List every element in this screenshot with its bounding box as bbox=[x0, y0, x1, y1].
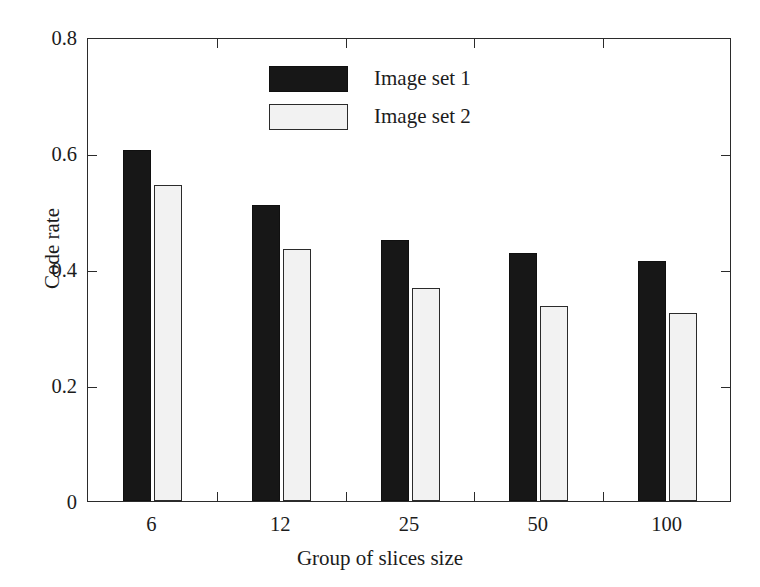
x-tick-mark bbox=[217, 39, 218, 48]
figure-canvas: 00.20.40.60.8 6122550100 Code rate Group… bbox=[0, 0, 760, 587]
x-axis-title: Group of slices size bbox=[0, 546, 760, 571]
y-tick-mark bbox=[721, 387, 730, 388]
bar-image-set-1-25 bbox=[381, 240, 409, 501]
plot-area: Image set 1 Image set 2 bbox=[87, 38, 731, 502]
x-tick-label: 100 bbox=[627, 514, 707, 535]
x-tick-mark bbox=[346, 492, 347, 501]
x-tick-mark bbox=[474, 492, 475, 501]
y-tick-mark bbox=[721, 271, 730, 272]
y-tick-mark bbox=[721, 155, 730, 156]
x-tick-mark bbox=[346, 39, 347, 48]
y-tick-label: 0 bbox=[7, 492, 77, 513]
y-tick-mark bbox=[88, 271, 97, 272]
x-tick-mark bbox=[217, 492, 218, 501]
x-tick-label: 12 bbox=[240, 514, 320, 535]
bar-image-set-2-100 bbox=[669, 313, 697, 502]
legend-item: Image set 1 bbox=[269, 62, 569, 100]
bar-image-set-2-6 bbox=[154, 185, 182, 501]
y-tick-mark bbox=[88, 155, 97, 156]
legend-swatch-image-set-2 bbox=[269, 104, 348, 130]
bar-image-set-2-50 bbox=[540, 306, 568, 501]
y-axis-title: Code rate bbox=[40, 139, 65, 359]
x-tick-mark bbox=[603, 492, 604, 501]
bar-image-set-2-12 bbox=[283, 249, 311, 501]
x-tick-label: 25 bbox=[369, 514, 449, 535]
bar-image-set-1-50 bbox=[509, 253, 537, 501]
y-tick-label: 0.2 bbox=[7, 376, 77, 397]
y-tick-mark bbox=[88, 387, 97, 388]
legend-label-image-set-1: Image set 1 bbox=[374, 65, 471, 92]
bar-image-set-1-100 bbox=[638, 261, 666, 501]
bar-image-set-1-6 bbox=[123, 150, 151, 501]
x-tick-label: 50 bbox=[498, 514, 578, 535]
x-tick-label: 6 bbox=[111, 514, 191, 535]
legend: Image set 1 Image set 2 bbox=[269, 62, 569, 138]
bar-image-set-1-12 bbox=[252, 205, 280, 501]
x-tick-mark bbox=[474, 39, 475, 48]
y-tick-label: 0.8 bbox=[7, 28, 77, 49]
bar-image-set-2-25 bbox=[412, 288, 440, 501]
x-tick-mark bbox=[603, 39, 604, 48]
legend-label-image-set-2: Image set 2 bbox=[374, 103, 471, 130]
legend-item: Image set 2 bbox=[269, 100, 569, 138]
legend-swatch-image-set-1 bbox=[269, 66, 348, 92]
